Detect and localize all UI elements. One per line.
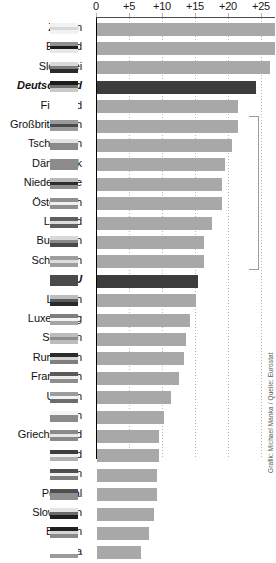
chart-row: Bulgarien — [0, 233, 275, 252]
country-flag-icon — [50, 295, 78, 306]
value-bar — [97, 197, 222, 210]
country-flag-icon — [50, 198, 78, 209]
country-flag-icon — [50, 42, 78, 53]
chart-row: Belgien — [0, 524, 275, 543]
chart-row: Schweden — [0, 253, 275, 272]
country-flag-icon — [50, 392, 78, 403]
country-flag-icon — [50, 450, 78, 461]
country-flag-icon — [50, 23, 78, 34]
x-axis: 0+5+10+15+20+25 — [0, 0, 275, 16]
chart-row: Finnland — [0, 98, 275, 117]
plot-area: ZypernEstlandSlowakeiDeutschlandFinnland… — [0, 18, 275, 477]
country-flag-icon — [50, 178, 78, 189]
value-bar — [97, 275, 198, 288]
chart-credit: Grafik: Michael Manka / Quelle: Eurostat — [267, 352, 274, 473]
country-flag-icon — [50, 256, 78, 267]
value-bar — [97, 411, 164, 424]
chart-row: Österreich — [0, 195, 275, 214]
chart-row: Lettland — [0, 214, 275, 233]
value-bar — [97, 236, 204, 249]
value-bar — [97, 372, 179, 385]
chart-row: EU — [0, 272, 275, 291]
group-bracket — [249, 116, 259, 270]
country-flag-icon — [50, 508, 78, 519]
chart-row: Rumänien — [0, 350, 275, 369]
chart-row: Portugal — [0, 486, 275, 505]
chart-row: Zypern — [0, 20, 275, 39]
country-flag-icon — [50, 314, 78, 325]
chart-row: Niederlande — [0, 175, 275, 194]
value-bar — [97, 100, 238, 113]
country-flag-icon — [50, 372, 78, 383]
chart-row: Estland — [0, 39, 275, 58]
chart-row: Irland — [0, 447, 275, 466]
value-bar — [97, 255, 204, 268]
value-bar — [97, 333, 186, 346]
country-flag-icon — [50, 489, 78, 500]
value-bar — [97, 294, 196, 307]
value-bar — [97, 527, 149, 540]
country-flag-icon — [50, 411, 78, 422]
chart-row: Frankreich — [0, 369, 275, 388]
value-bar — [97, 23, 275, 36]
value-bar — [97, 449, 159, 462]
country-flag-icon — [50, 353, 78, 364]
country-flag-icon — [50, 430, 78, 441]
chart-row: Griechenland — [0, 427, 275, 446]
chart-row: Ungarn — [0, 389, 275, 408]
value-bar — [97, 391, 171, 404]
value-bar — [97, 217, 212, 230]
value-bar — [97, 314, 190, 327]
x-axis-tick-label: +10 — [153, 0, 171, 12]
country-flag-icon — [50, 547, 78, 558]
value-bar — [97, 488, 157, 501]
chart-row: Slowakei — [0, 59, 275, 78]
value-bar — [97, 120, 238, 133]
country-flag-icon — [50, 217, 78, 228]
value-bar — [97, 61, 270, 74]
x-axis-tick-label: +20 — [219, 0, 237, 12]
chart-row: Luxemburg — [0, 311, 275, 330]
chart-row: Tschechien — [0, 136, 275, 155]
chart-row: Litauen — [0, 292, 275, 311]
x-axis-tick-label: +5 — [123, 0, 135, 12]
x-axis-tick-label: +15 — [186, 0, 204, 12]
value-bar — [97, 42, 275, 55]
value-bar — [97, 546, 141, 559]
country-flag-icon — [50, 236, 78, 247]
value-bar — [97, 352, 184, 365]
value-bar — [97, 508, 154, 521]
value-bar — [97, 139, 232, 152]
value-bar — [97, 469, 157, 482]
value-bar — [97, 158, 225, 171]
chart-row: Großbritannien — [0, 117, 275, 136]
value-bar — [97, 81, 256, 94]
country-flag-icon — [50, 527, 78, 538]
value-bar — [97, 430, 159, 443]
country-flag-icon — [50, 81, 78, 92]
chart-row: Malta — [0, 544, 275, 563]
country-flag-icon — [50, 333, 78, 344]
chart-row: Italien — [0, 466, 275, 485]
country-flag-icon — [50, 101, 78, 112]
country-flag-icon — [50, 469, 78, 480]
x-axis-tick-label: +25 — [252, 0, 270, 12]
country-flag-icon — [50, 159, 78, 170]
value-bar — [97, 178, 222, 191]
country-flag-icon — [50, 62, 78, 73]
chart-row: Polen — [0, 408, 275, 427]
chart-row: Slowenien — [0, 505, 275, 524]
chart-row: Spanien — [0, 330, 275, 349]
country-flag-icon — [50, 139, 78, 150]
country-flag-icon — [50, 275, 78, 286]
x-axis-tick-label: 0 — [93, 0, 99, 12]
chart-row: Dänemark — [0, 156, 275, 175]
chart-row: Deutschland — [0, 78, 275, 97]
country-flag-icon — [50, 120, 78, 131]
